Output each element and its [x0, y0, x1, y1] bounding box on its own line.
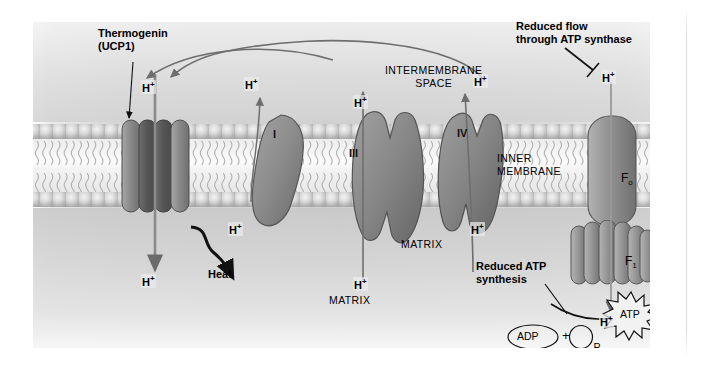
h-complex-iii-top: H+	[353, 95, 368, 109]
matrix-label-center: MATRIX	[401, 238, 442, 251]
atp-label: ATP	[620, 308, 640, 320]
h-atp-synthase-bot: H+	[599, 314, 614, 328]
illustration-plate: Thermogenin(UCP1) Heat Reduced flowthrou…	[33, 22, 650, 348]
f1-subscript: 1	[632, 261, 636, 270]
h-complex-iv-bot: H+	[470, 222, 485, 236]
phosphate-label: Pi	[576, 329, 602, 348]
intermembrane-space-label: INTERMEMBRANESPACE	[385, 64, 482, 90]
h-thermogenin-top: H+	[141, 80, 156, 94]
plus-sign: +	[562, 328, 570, 343]
h-complex-i-bot: H+	[228, 222, 243, 236]
f1-label: F1	[605, 240, 637, 284]
h-atp-synthase-top: H+	[601, 70, 616, 84]
h-complex-iv-top: H+	[473, 74, 488, 88]
figure-canvas: Thermogenin(UCP1) Heat Reduced flowthrou…	[0, 0, 705, 366]
adp-label: ADP	[517, 330, 539, 342]
page-edge-line	[686, 8, 687, 358]
fo-label: Fo	[601, 157, 633, 201]
h-complex-iii-bot: H+	[353, 277, 368, 291]
matrix-label-left: MATRIX	[329, 294, 370, 307]
reduced-atp-label: Reduced ATPsynthesis	[476, 260, 546, 286]
phosphate-subscript: i	[601, 347, 603, 348]
h-complex-i-top: H+	[244, 77, 259, 91]
reduced-flow-label: Reduced flowthrough ATP synthase	[516, 22, 632, 46]
h-thermogenin-bot: H+	[141, 274, 156, 288]
complex-iv-label: IV	[457, 127, 467, 139]
thermogenin-label: Thermogenin(UCP1)	[98, 27, 168, 53]
complex-i-label: I	[273, 128, 276, 140]
heat-label: Heat	[208, 268, 232, 281]
phosphate-letter: P	[594, 341, 601, 348]
fo-subscript: o	[628, 178, 632, 187]
inner-membrane-label: INNERMEMBRANE	[497, 152, 561, 178]
complex-iii-label: III	[349, 147, 358, 159]
